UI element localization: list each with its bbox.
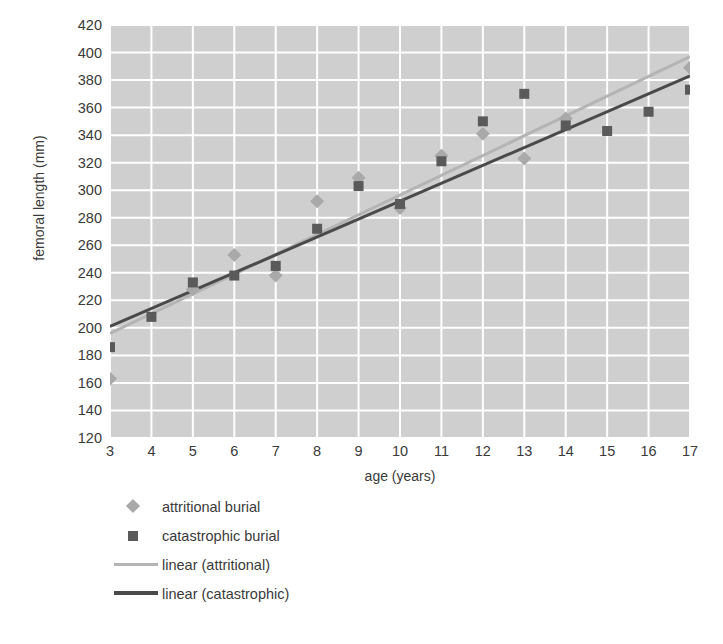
x-tick-label: 12 (463, 444, 503, 459)
x-axis-title: age (years) (110, 468, 690, 484)
data-point-square (478, 116, 488, 126)
y-tick-label: 280 (56, 211, 102, 226)
data-point-diamond (310, 194, 324, 208)
legend-label: catastrophic burial (162, 528, 280, 544)
data-point-diamond (683, 61, 690, 75)
legend-label: linear (catastrophic) (162, 586, 289, 602)
y-tick-label: 160 (56, 376, 102, 391)
data-point-square (395, 199, 405, 209)
x-tick-label: 8 (297, 444, 337, 459)
data-point-square (354, 181, 364, 191)
y-tick-label: 360 (56, 101, 102, 116)
y-tick-label: 180 (56, 348, 102, 363)
legend-label: attritional burial (162, 499, 260, 515)
legend-key (110, 492, 162, 521)
x-tick-label: 4 (131, 444, 171, 459)
x-tick-label: 5 (173, 444, 213, 459)
y-tick-label: 140 (56, 403, 102, 418)
data-point-square (602, 126, 612, 136)
legend-diamond-icon (126, 499, 140, 513)
plot-area (110, 25, 690, 438)
legend-square-icon (128, 531, 138, 541)
legend-key (110, 521, 162, 550)
x-tick-label: 7 (256, 444, 296, 459)
y-tick-label: 300 (56, 183, 102, 198)
plot-svg (110, 25, 690, 438)
data-point-square (561, 120, 571, 130)
y-tick-label: 220 (56, 293, 102, 308)
data-point-square (519, 89, 529, 99)
x-tick-label: 3 (90, 444, 130, 459)
y-tick-label: 420 (56, 18, 102, 33)
data-point-diamond (476, 127, 490, 141)
data-point-diamond (227, 248, 241, 262)
y-tick-label: 260 (56, 238, 102, 253)
y-tick-label: 240 (56, 266, 102, 281)
y-tick-label: 380 (56, 73, 102, 88)
y-axis-title: femoral length (mm) (31, 98, 47, 298)
y-axis-tick-labels: 4204003803603403203002802602402202001801… (56, 0, 102, 644)
data-point-square (146, 312, 156, 322)
x-tick-label: 15 (587, 444, 627, 459)
x-tick-label: 14 (546, 444, 586, 459)
legend-row: linear (catastrophic) (110, 579, 530, 608)
data-point-square (110, 342, 115, 352)
legend-key (110, 579, 162, 608)
legend-row: attritional burial (110, 492, 530, 521)
legend-light-line-icon (114, 563, 158, 566)
x-tick-label: 10 (380, 444, 420, 459)
x-tick-label: 9 (339, 444, 379, 459)
legend-row: linear (attritional) (110, 550, 530, 579)
femoral-length-scatter-chart: femoral length (mm) 42040038036034032030… (0, 0, 723, 644)
gridlines (110, 25, 690, 438)
data-point-square (312, 224, 322, 234)
data-point-square (685, 85, 690, 95)
y-tick-label: 400 (56, 46, 102, 61)
x-tick-label: 11 (421, 444, 461, 459)
y-tick-label: 320 (56, 156, 102, 171)
x-tick-label: 17 (670, 444, 710, 459)
legend-row: catastrophic burial (110, 521, 530, 550)
data-point-square (271, 261, 281, 271)
data-point-square (644, 107, 654, 117)
x-axis-tick-labels: 34567891011121314151617 (0, 444, 723, 466)
legend-key (110, 550, 162, 579)
x-tick-label: 6 (214, 444, 254, 459)
data-point-square (436, 156, 446, 166)
chart-legend: attritional burialcatastrophic buriallin… (110, 492, 530, 608)
data-point-square (229, 271, 239, 281)
x-tick-label: 13 (504, 444, 544, 459)
data-point-square (188, 277, 198, 287)
y-tick-label: 340 (56, 128, 102, 143)
legend-dark-line-icon (114, 591, 158, 595)
x-tick-label: 16 (629, 444, 669, 459)
legend-label: linear (attritional) (162, 557, 270, 573)
y-tick-label: 200 (56, 321, 102, 336)
